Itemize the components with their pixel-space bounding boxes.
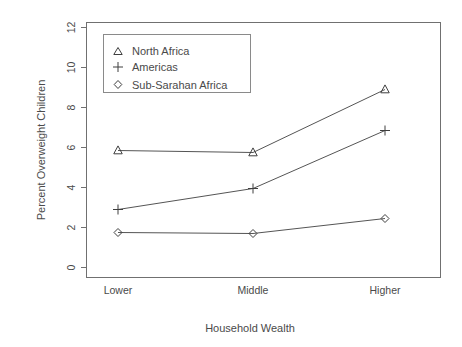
- x-axis-title: Household Wealth: [205, 322, 295, 334]
- triangle-marker-higher: [381, 85, 389, 93]
- y-tick-label-4: 4: [65, 184, 77, 190]
- x-tick-label-middle: Middle: [238, 284, 269, 296]
- y-axis-tick-labels: 0 2 4 6 8 10 12: [65, 22, 77, 271]
- legend-label-north-africa: North Africa: [132, 45, 190, 57]
- series-north-africa: [114, 85, 389, 156]
- y-tick-label-6: 6: [65, 144, 77, 150]
- legend-entry-sub-sarahan-africa: Sub-Sarahan Africa: [114, 79, 228, 91]
- chart-figure: 0 2 4 6 8 10 12 Percent Overweight Child…: [0, 0, 462, 347]
- y-tick-label-8: 8: [65, 104, 77, 110]
- triangle-marker-lower: [114, 146, 122, 154]
- series-sub-sarahan-africa: [114, 215, 389, 238]
- series-line: [118, 131, 385, 210]
- x-tick-label-lower: Lower: [104, 284, 133, 296]
- plus-marker-middle: [248, 184, 258, 194]
- legend-label-sub-sarahan-africa: Sub-Sarahan Africa: [132, 79, 228, 91]
- y-axis-title: Percent Overweight Children: [35, 80, 47, 221]
- plus-marker-lower: [113, 205, 123, 215]
- y-tick-label-10: 10: [65, 62, 77, 74]
- chart-legend: North Africa Americas Sub-Sarahan Africa: [104, 35, 251, 93]
- y-tick-label-2: 2: [65, 224, 77, 230]
- series-americas: [113, 126, 390, 215]
- plus-marker-higher: [380, 126, 390, 136]
- x-axis-tick-labels: Lower Middle Higher: [104, 284, 401, 296]
- x-tick-label-higher: Higher: [370, 284, 401, 296]
- y-tick-label-12: 12: [65, 22, 77, 34]
- y-axis-ticks: [81, 28, 87, 268]
- series-line: [118, 90, 385, 153]
- line-chart: 0 2 4 6 8 10 12 Percent Overweight Child…: [0, 0, 462, 347]
- series-layer: [113, 85, 390, 238]
- triangle-marker-middle: [249, 148, 257, 156]
- legend-label-americas: Americas: [132, 61, 178, 73]
- y-tick-label-0: 0: [65, 264, 77, 270]
